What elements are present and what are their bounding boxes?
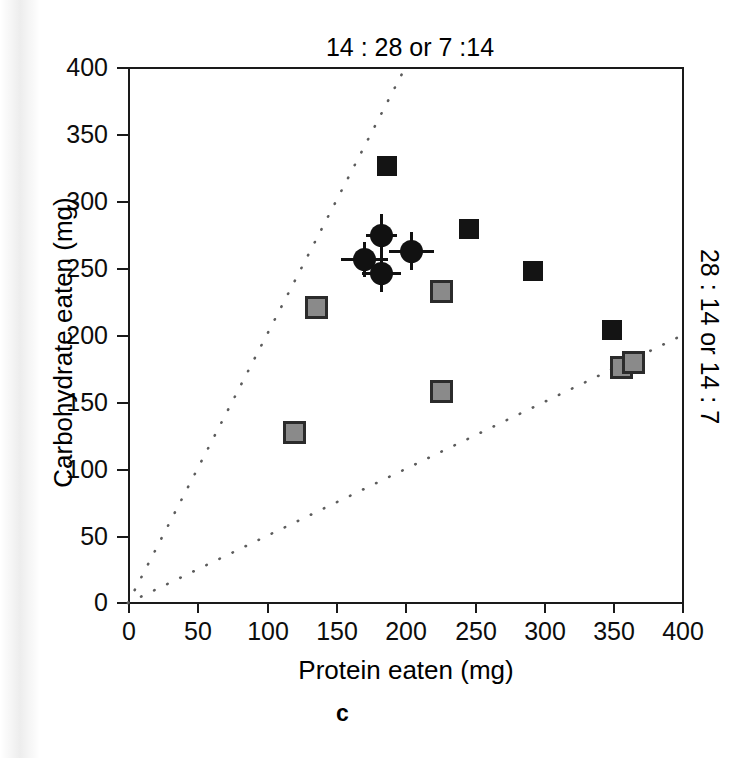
data-point-black-square (459, 219, 479, 239)
data-point-black-square (377, 156, 397, 176)
scatter-plot-figure: 400 350 300 250 200 150 100 50 0 0 50 10… (0, 0, 752, 758)
data-point-black-square (523, 261, 543, 281)
data-point-black-circle (370, 262, 393, 285)
upper-ratio-line (128, 68, 405, 603)
lower-ratio-line (128, 335, 683, 603)
data-point-gray-square (622, 351, 645, 374)
data-point-black-square (602, 320, 622, 340)
data-point-gray-square (305, 296, 328, 319)
ratio-guide-lines (0, 0, 752, 758)
data-point-gray-square (430, 280, 453, 303)
data-point-black-circle (400, 240, 423, 263)
data-point-gray-square (283, 421, 306, 444)
data-point-black-circle (370, 224, 393, 247)
data-point-gray-square (430, 380, 453, 403)
